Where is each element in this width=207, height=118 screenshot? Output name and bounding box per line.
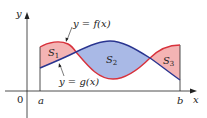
g-curve-label: y = g(x) [58, 76, 99, 87]
x-axis-arrow-icon [190, 89, 197, 94]
area-between-curves-diagram: y x 0 a b y = f(x) y = g(x) S1 S2 S3 [0, 0, 207, 118]
f-curve-label: y = f(x) [72, 18, 111, 29]
x-axis-label: x [193, 94, 199, 105]
b-label: b [177, 95, 183, 106]
g-label-leader-arrow-icon [59, 63, 62, 68]
y-axis-arrow-icon [25, 12, 30, 19]
y-axis-label: y [15, 8, 22, 19]
f-label-leader [67, 27, 72, 40]
origin-label: 0 [17, 94, 23, 105]
f-label-leader-arrow-icon [66, 38, 69, 43]
a-label: a [38, 95, 44, 106]
